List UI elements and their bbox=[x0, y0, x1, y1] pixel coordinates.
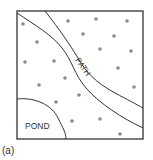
tree-dot bbox=[37, 83, 41, 87]
tree-dot bbox=[118, 132, 122, 136]
tree-dot bbox=[23, 60, 27, 64]
tree-dot bbox=[98, 47, 102, 51]
tree-dot bbox=[66, 19, 70, 23]
tree-dot bbox=[116, 66, 120, 70]
tree-dot bbox=[125, 19, 129, 23]
tree-dot bbox=[81, 32, 85, 36]
tree-dot bbox=[35, 40, 39, 44]
tree-dot bbox=[132, 85, 136, 89]
tree-dot bbox=[129, 49, 133, 53]
tree-dot bbox=[70, 119, 74, 123]
site-boundary bbox=[17, 11, 143, 139]
site-diagram: PATH POND bbox=[0, 0, 153, 160]
tree-dot bbox=[63, 76, 67, 80]
tree-dot bbox=[94, 17, 98, 21]
tree-dot bbox=[54, 100, 58, 104]
pond-label: POND bbox=[25, 121, 50, 131]
figure-caption: (a) bbox=[2, 145, 14, 156]
tree-dot bbox=[21, 22, 25, 26]
tree-dot bbox=[52, 59, 56, 63]
tree-dot bbox=[77, 93, 81, 97]
tree-dot bbox=[98, 117, 102, 121]
tree-dot bbox=[112, 34, 116, 38]
